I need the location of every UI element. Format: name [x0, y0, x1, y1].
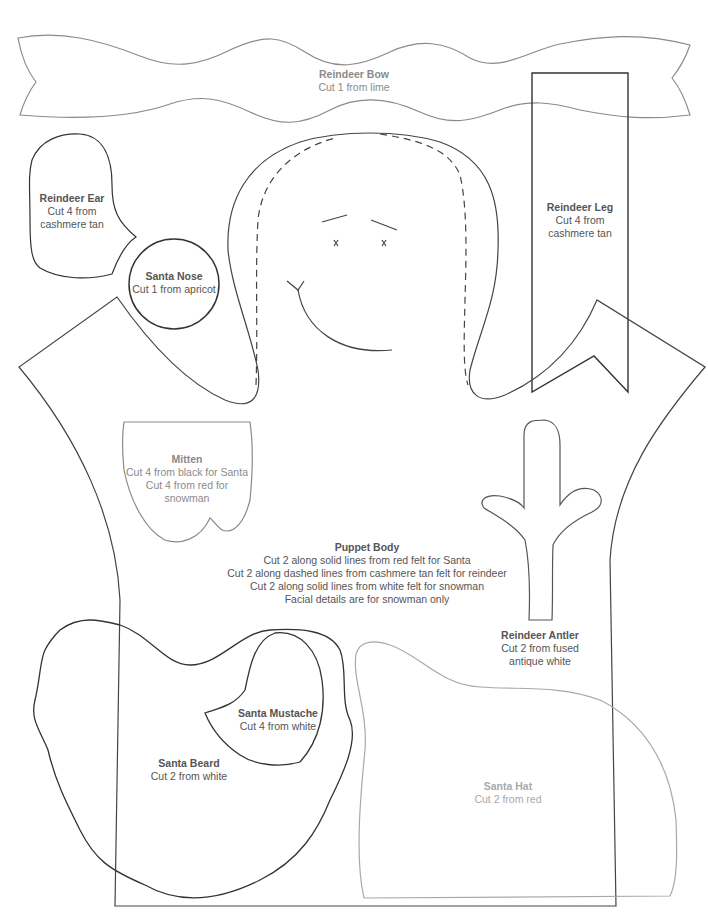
santa-mustache-title: Santa Mustache	[228, 707, 328, 720]
left-eye-x	[334, 240, 338, 246]
santa-nose-label: Santa Nose Cut 1 from apricot	[124, 270, 224, 296]
santa-beard-instruction: Cut 2 from white	[139, 770, 239, 783]
puppet-body-title: Puppet Body	[212, 541, 522, 554]
santa-hat-label: Santa Hat Cut 2 from red	[458, 780, 558, 806]
santa-nose-instruction: Cut 1 from apricot	[124, 283, 224, 296]
puppet-body-instruction-4: Facial details are for snowman only	[212, 593, 522, 606]
smile	[298, 290, 392, 351]
left-eyebrow	[322, 215, 347, 222]
santa-mustache-instruction: Cut 4 from white	[228, 720, 328, 733]
reindeer-ear-instruction-1: Cut 4 from	[22, 205, 122, 218]
santa-hat-outline	[355, 642, 676, 898]
mitten-title: Mitten	[117, 453, 257, 466]
santa-hat-title: Santa Hat	[458, 780, 558, 793]
mitten-label: Mitten Cut 4 from black for Santa Cut 4 …	[117, 453, 257, 505]
reindeer-ear-title: Reindeer Ear	[22, 192, 122, 205]
reindeer-antler-instruction-2: antique white	[490, 655, 590, 668]
reindeer-ear-instruction-2: cashmere tan	[22, 218, 122, 231]
puppet-body-instruction-1: Cut 2 along solid lines from red felt fo…	[212, 554, 522, 567]
puppet-body-instruction-3: Cut 2 along solid lines from white felt …	[212, 580, 522, 593]
puppet-body-instruction-2: Cut 2 along dashed lines from cashmere t…	[212, 567, 522, 580]
puppet-body-label: Puppet Body Cut 2 along solid lines from…	[212, 541, 522, 606]
mitten-instruction-3: snowman	[117, 492, 257, 505]
right-eye-x	[382, 240, 386, 246]
santa-mustache-label: Santa Mustache Cut 4 from white	[228, 707, 328, 733]
reindeer-antler-instruction-1: Cut 2 from fused	[490, 642, 590, 655]
right-eyebrow	[371, 220, 397, 230]
pattern-canvas	[0, 0, 708, 924]
reindeer-bow-instruction: Cut 1 from lime	[264, 81, 444, 94]
santa-nose-title: Santa Nose	[124, 270, 224, 283]
reindeer-ear-label: Reindeer Ear Cut 4 from cashmere tan	[22, 192, 122, 231]
reindeer-leg-label: Reindeer Leg Cut 4 from cashmere tan	[530, 201, 630, 240]
smile-cheek-mark	[287, 281, 304, 290]
reindeer-antler-label: Reindeer Antler Cut 2 from fused antique…	[490, 629, 590, 668]
santa-beard-label: Santa Beard Cut 2 from white	[139, 757, 239, 783]
santa-beard-title: Santa Beard	[139, 757, 239, 770]
mitten-instruction-2: Cut 4 from red for	[117, 479, 257, 492]
mitten-instruction-1: Cut 4 from black for Santa	[117, 466, 257, 479]
reindeer-bow-label: Reindeer Bow Cut 1 from lime	[264, 68, 444, 94]
reindeer-leg-instruction-1: Cut 4 from	[530, 214, 630, 227]
reindeer-antler-title: Reindeer Antler	[490, 629, 590, 642]
reindeer-bow-title: Reindeer Bow	[264, 68, 444, 81]
puppet-body-dashed-outline	[256, 134, 468, 385]
snowman-face	[287, 215, 397, 351]
reindeer-leg-title: Reindeer Leg	[530, 201, 630, 214]
reindeer-leg-instruction-2: cashmere tan	[530, 227, 630, 240]
santa-hat-instruction: Cut 2 from red	[458, 793, 558, 806]
